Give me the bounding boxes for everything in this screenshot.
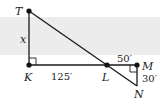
measure-TK: x <box>20 33 27 46</box>
label-N: N <box>133 88 144 101</box>
point-T <box>26 8 31 13</box>
diagram-canvas: T K L M N x 125′ 50′ 30′ <box>0 0 168 106</box>
label-M: M <box>141 60 154 73</box>
label-L: L <box>101 71 109 84</box>
measure-LM: 50′ <box>117 53 133 64</box>
label-K: K <box>23 71 33 84</box>
measure-KL: 125′ <box>51 71 73 82</box>
point-K <box>26 62 31 67</box>
label-T: T <box>15 5 24 18</box>
point-L <box>104 62 109 67</box>
point-M <box>134 62 139 67</box>
geometry-diagram: T K L M N x 125′ 50′ 30′ <box>0 0 168 106</box>
measure-MN: 30′ <box>142 73 158 84</box>
